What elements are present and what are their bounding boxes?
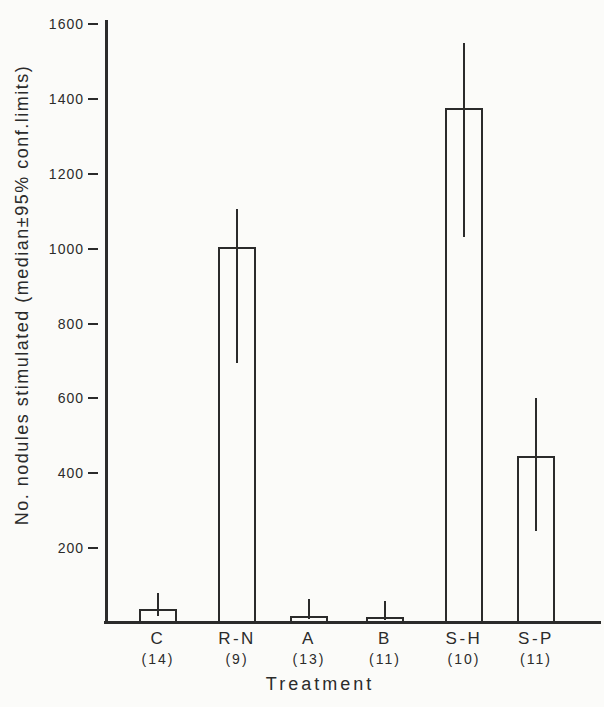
sample-size-label-b: (11): [340, 652, 430, 666]
y-tick-mark-600: [88, 397, 98, 399]
y-tick-label-1400: 1400: [30, 92, 84, 106]
error-bar-r-n: [236, 209, 238, 362]
y-tick-label-600: 600: [30, 391, 84, 405]
bar-chart-figure: No. nodules stimulated (median±95% conf.…: [0, 0, 604, 707]
x-axis-label: Treatment: [230, 674, 410, 695]
y-axis-label: No. nodules stimulated (median±95% conf.…: [12, 0, 34, 595]
y-tick-mark-1200: [88, 173, 98, 175]
error-bar-a: [308, 599, 310, 620]
sample-size-label-s-p: (11): [491, 652, 581, 666]
y-axis-line: [105, 20, 108, 624]
y-tick-label-1600: 1600: [30, 17, 84, 31]
y-tick-label-200: 200: [30, 541, 84, 555]
y-tick-mark-200: [88, 547, 98, 549]
category-label-s-p: S-P: [491, 630, 581, 647]
y-tick-mark-1400: [88, 98, 98, 100]
y-tick-mark-1000: [88, 248, 98, 250]
y-tick-mark-800: [88, 323, 98, 325]
y-tick-mark-1600: [88, 23, 98, 25]
category-label-b: B: [340, 630, 430, 647]
y-tick-label-400: 400: [30, 466, 84, 480]
y-tick-label-800: 800: [30, 317, 84, 331]
y-tick-label-1200: 1200: [30, 167, 84, 181]
y-tick-mark-400: [88, 472, 98, 474]
y-tick-label-1000: 1000: [30, 242, 84, 256]
error-bar-s-h: [463, 43, 465, 238]
category-label-c: C: [113, 630, 203, 647]
x-axis-line: [104, 621, 601, 624]
error-bar-c: [157, 593, 159, 615]
error-bar-b: [384, 601, 386, 620]
error-bar-s-p: [535, 398, 537, 531]
sample-size-label-c: (14): [113, 652, 203, 666]
